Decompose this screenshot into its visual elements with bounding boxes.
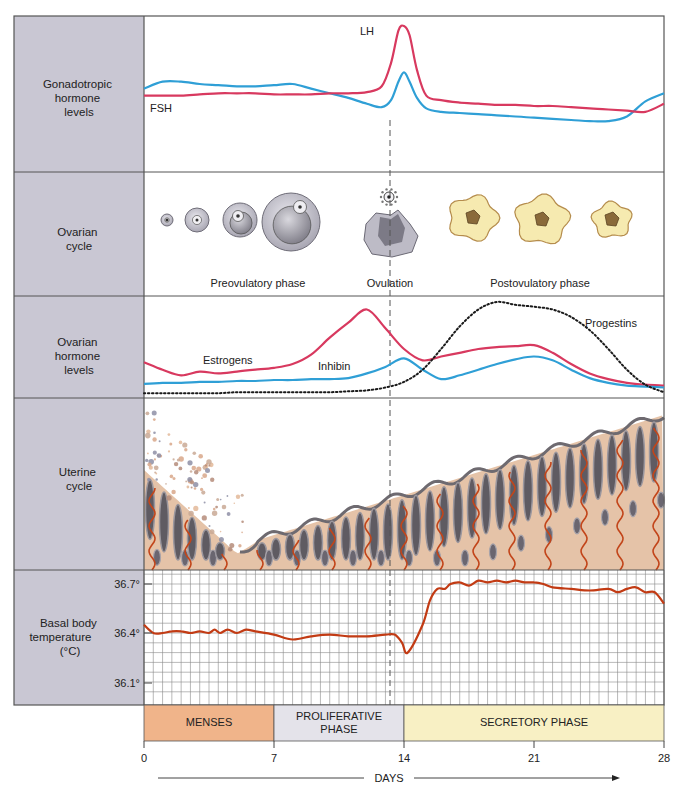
shed-debris xyxy=(204,502,206,504)
follicle-icon xyxy=(185,208,209,232)
shed-debris xyxy=(227,495,229,497)
shed-debris xyxy=(145,459,148,462)
shed-debris xyxy=(205,468,210,473)
shed-debris xyxy=(153,451,157,455)
antrum xyxy=(273,206,311,244)
uterine-gland-section xyxy=(574,518,581,534)
shed-debris xyxy=(147,453,149,455)
uterine-gland-section xyxy=(462,550,469,566)
shed-debris xyxy=(209,525,211,527)
uterine-gland xyxy=(412,495,421,555)
shed-debris xyxy=(190,480,194,484)
days-arrow: DAYS xyxy=(158,772,620,784)
uterine-gland xyxy=(440,487,449,547)
x-tick-label: 28 xyxy=(658,752,670,764)
shed-debris xyxy=(174,462,178,466)
uterine-gland xyxy=(468,478,477,538)
shed-debris xyxy=(216,498,219,501)
x-tick-label: 7 xyxy=(271,752,277,764)
shed-debris xyxy=(147,478,151,482)
shed-debris xyxy=(156,478,158,480)
uterine-gland xyxy=(566,448,575,508)
shed-debris xyxy=(219,537,224,542)
shed-debris xyxy=(165,483,167,485)
shed-debris xyxy=(185,481,187,483)
shed-debris xyxy=(152,410,157,415)
oocyte-nucleus xyxy=(196,219,199,222)
ovulated-egg-icon xyxy=(380,188,398,206)
phase-label: PROLIFERATIVE xyxy=(296,710,382,722)
shed-debris xyxy=(170,475,174,479)
shed-debris xyxy=(179,467,183,471)
uterine-gland xyxy=(188,517,197,560)
shed-debris xyxy=(241,521,244,524)
uterine-gland xyxy=(538,457,547,517)
days-axis: 07142128 xyxy=(141,741,670,764)
estrogens-label: Estrogens xyxy=(203,354,253,366)
shed-debris xyxy=(220,531,222,533)
shed-debris xyxy=(234,502,236,504)
shed-debris xyxy=(236,495,240,499)
inhibin-label: Inhibin xyxy=(318,360,350,372)
shed-debris xyxy=(192,466,197,471)
series-line-lh xyxy=(144,25,664,112)
shed-debris xyxy=(159,440,161,442)
shed-debris xyxy=(152,437,156,441)
shed-debris xyxy=(206,459,211,464)
shed-debris xyxy=(147,462,151,466)
uterine-gland xyxy=(160,492,169,552)
preovulatory-label: Preovulatory phase xyxy=(211,277,306,289)
shed-debris xyxy=(222,505,227,510)
uterine-gland xyxy=(636,426,645,486)
uterine-gland xyxy=(608,435,617,495)
lh-label: LH xyxy=(360,25,374,37)
shed-debris xyxy=(193,506,198,511)
progestins-label: Progestins xyxy=(585,317,637,329)
menstrual-cycle-diagram: Gonadotropic hormone levels Ovarian cycl… xyxy=(0,0,681,793)
uterine-gland-section xyxy=(602,509,609,525)
shed-debris xyxy=(154,465,159,470)
uterine-gland xyxy=(342,517,351,560)
phase-label: MENSES xyxy=(186,716,232,728)
fsh-label: FSH xyxy=(150,102,172,114)
uterine-gland xyxy=(454,482,463,542)
oocyte-nucleus xyxy=(298,205,302,209)
shed-debris xyxy=(188,511,193,516)
shed-debris xyxy=(188,507,190,509)
shed-debris xyxy=(182,442,187,447)
uterine-endometrium-illustration xyxy=(144,410,665,570)
postovulatory-label: Postovulatory phase xyxy=(490,277,590,289)
shed-debris xyxy=(187,486,190,489)
x-tick-label: 21 xyxy=(528,752,540,764)
shed-debris xyxy=(173,458,175,460)
shed-debris xyxy=(171,490,175,494)
phase-segment: PROLIFERATIVEPHASE xyxy=(274,705,404,741)
corpus-luteum-icon xyxy=(515,194,571,244)
shed-debris xyxy=(191,487,193,489)
shed-debris xyxy=(198,454,203,459)
shed-debris xyxy=(146,411,150,415)
shed-debris xyxy=(166,495,171,500)
uterine-gland-section xyxy=(378,550,385,566)
phase-segment: MENSES xyxy=(144,705,274,741)
shed-debris xyxy=(153,432,156,435)
bbt-tick-label: 36.1° xyxy=(114,677,140,689)
uterine-gland xyxy=(594,439,603,499)
ovulation-label: Ovulation xyxy=(367,277,413,289)
shed-debris xyxy=(194,487,197,490)
shed-debris xyxy=(228,547,233,552)
shed-debris xyxy=(241,494,244,497)
shed-debris xyxy=(193,451,197,455)
uterine-gland xyxy=(314,526,323,560)
uterine-gland xyxy=(370,508,379,560)
shed-debris xyxy=(169,443,172,446)
shed-debris xyxy=(201,477,203,479)
follicle-icon xyxy=(223,203,257,237)
uterine-gland xyxy=(552,452,561,512)
follicle-icon xyxy=(161,214,173,226)
uterine-gland xyxy=(524,461,533,521)
oocyte-nucleus xyxy=(236,214,240,218)
shed-debris xyxy=(154,472,156,474)
uterine-gland-section xyxy=(350,550,357,566)
bbt-tick-label: 36.7° xyxy=(114,578,140,590)
